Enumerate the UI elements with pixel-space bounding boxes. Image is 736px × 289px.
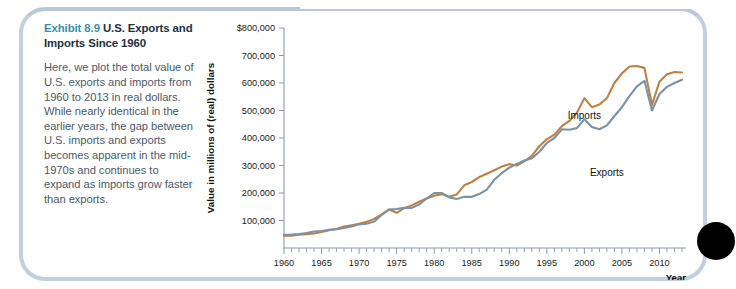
x-axis-title-group: Year (666, 272, 687, 280)
series-line-exports (284, 80, 682, 235)
x-tick-label: 1960 (274, 258, 294, 268)
x-tick-label: 1980 (424, 258, 444, 268)
exhibit-number: Exhibit 8.9 (44, 22, 100, 34)
x-tick-label: 1985 (462, 258, 482, 268)
series-label-imports: Imports (568, 110, 601, 121)
x-tick-label: 2005 (612, 258, 632, 268)
exhibit-description: Here, we plot the total value of U.S. ex… (44, 60, 196, 206)
line-chart: Value in millions of (real) dollars $800… (200, 10, 700, 280)
x-tick-label: 1975 (386, 258, 406, 268)
y-axis-ticks: $800,000700,000600,000500,000400,000300,… (237, 23, 284, 226)
series-labels: ImportsExports (568, 110, 624, 178)
series-label-exports: Exports (590, 167, 624, 178)
y-tick-label: 500,000 (242, 106, 275, 116)
y-tick-label: $800,000 (237, 23, 275, 33)
exhibit-caption: Exhibit 8.9 U.S. Exports and Imports Sin… (44, 21, 196, 206)
x-axis-title: Year (666, 272, 687, 280)
y-tick-label: 100,000 (242, 216, 275, 226)
page-title: Exhibit 8.9 U.S. Exports and Imports Sin… (44, 21, 196, 51)
x-tick-label: 1995 (537, 258, 557, 268)
y-tick-label: 700,000 (242, 51, 275, 61)
axis-lines (284, 28, 686, 248)
y-tick-label: 600,000 (242, 78, 275, 88)
frame-top-mask (300, 0, 736, 9)
chart-canvas: Value in millions of (real) dollars $800… (200, 10, 700, 280)
y-axis-title-group: Value in millions of (real) dollars (205, 62, 216, 213)
x-axis-ticks: 1960196519701975198019851990199520002005… (274, 248, 682, 268)
x-tick-label: 2010 (649, 258, 669, 268)
x-tick-label: 1990 (499, 258, 519, 268)
x-tick-label: 2000 (574, 258, 594, 268)
y-axis-title: Value in millions of (real) dollars (205, 62, 216, 213)
series-lines (284, 66, 682, 236)
y-tick-label: 300,000 (242, 161, 275, 171)
y-tick-label: 400,000 (242, 133, 275, 143)
x-tick-label: 1965 (311, 258, 331, 268)
y-tick-label: 200,000 (242, 188, 275, 198)
decorative-dot (697, 222, 735, 260)
series-line-imports (284, 66, 682, 236)
x-tick-label: 1970 (349, 258, 369, 268)
